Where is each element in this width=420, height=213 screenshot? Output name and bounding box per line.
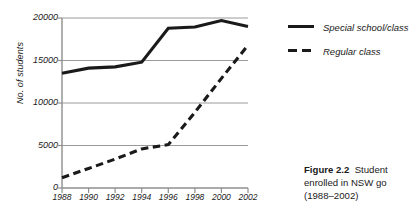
caption-figure-number: Figure 2.2 (304, 164, 349, 175)
line-chart-svg (0, 0, 260, 213)
y-tick-marks (57, 18, 62, 188)
legend-item-regular-class: Regular class (288, 42, 420, 60)
caption-line-1-text: Student (355, 164, 388, 175)
legend-dashed-line-icon (288, 45, 314, 57)
figure-caption: Figure 2.2 Student enrolled in NSW go (1… (304, 163, 420, 203)
chart-legend: Special school/class Regular class (288, 18, 420, 66)
series-line-special-school (62, 21, 248, 74)
series-line-regular-class (62, 45, 248, 178)
x-tick-label-2002: 2002 (231, 192, 265, 202)
caption-line-1: Figure 2.2 Student (304, 163, 420, 176)
figure-container: No. of students 20000 15000 10000 5000 0 (0, 0, 420, 213)
legend-item-special-school: Special school/class (288, 18, 420, 36)
caption-line-3: (1988–2002) (304, 189, 420, 202)
legend-solid-line-icon (288, 21, 314, 33)
legend-label-special-school: Special school/class (323, 22, 409, 33)
caption-line-2: enrolled in NSW go (304, 176, 420, 189)
legend-label-regular-class: Regular class (323, 46, 381, 57)
chart-plot-area: No. of students 20000 15000 10000 5000 0 (0, 0, 260, 213)
